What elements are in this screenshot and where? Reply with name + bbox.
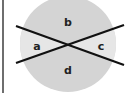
label-a: a	[33, 40, 40, 53]
label-d: d	[64, 64, 72, 77]
label-c: c	[98, 40, 105, 53]
angles-diagram: b a c d	[0, 0, 130, 93]
label-b: b	[64, 16, 72, 29]
